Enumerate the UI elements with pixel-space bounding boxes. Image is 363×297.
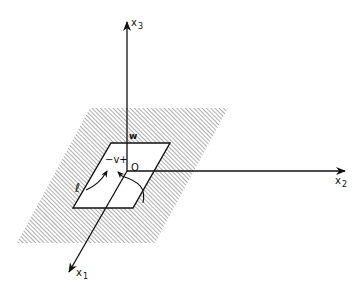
x2-base: x (335, 175, 341, 186)
x3-axis-label: x3 (131, 18, 143, 28)
x3-subscript: 3 (138, 22, 143, 31)
w-label: w (129, 132, 137, 141)
x1-subscript: 1 (83, 272, 88, 281)
v-label: −v+ (105, 155, 128, 165)
x1-axis-label: x1 (76, 268, 88, 278)
x3-base: x (131, 17, 137, 28)
x2-axis-label: x2 (335, 176, 347, 186)
ell-label: ℓ (75, 182, 80, 194)
x1-base: x (76, 267, 82, 278)
x2-subscript: 2 (342, 180, 347, 189)
origin-label: O (131, 163, 139, 173)
diagram-canvas (0, 0, 363, 297)
